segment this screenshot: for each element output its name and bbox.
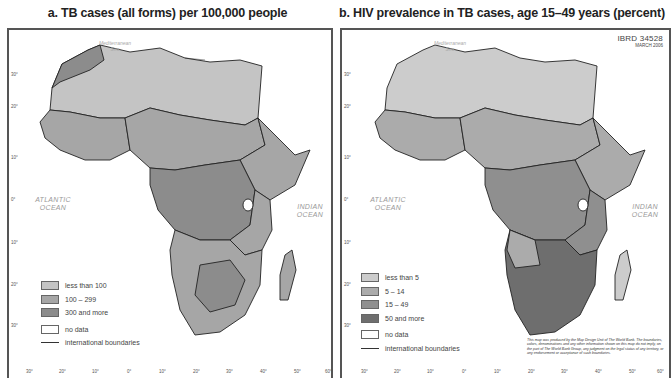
- legend-label: international boundaries: [385, 345, 460, 352]
- legend-item: international boundaries: [41, 336, 140, 350]
- ibrd-id: IBRD 34528: [617, 34, 663, 43]
- legend-label: 15 – 49: [385, 301, 408, 308]
- lon-tick: 30°: [361, 369, 368, 374]
- mediterranean-label: Mediterranean Sea: [85, 40, 145, 52]
- sea-label-line2: Sea: [420, 46, 480, 52]
- legend-swatch: [361, 273, 379, 282]
- lat-tick: 30°: [344, 323, 351, 328]
- legend-swatch: [361, 314, 379, 323]
- ocean-label-line2: OCEAN: [28, 204, 78, 212]
- lon-tick: 40°: [260, 369, 267, 374]
- ocean-label-line1: ATLANTIC: [28, 196, 78, 204]
- lat-tick: 30°: [11, 72, 18, 77]
- map-date: MARCH 2006: [617, 43, 663, 48]
- lat-tick: 20°: [344, 104, 351, 109]
- lon-tick: 0°: [462, 369, 466, 374]
- legend-swatch: [361, 287, 379, 296]
- lat-tick: 10°: [344, 155, 351, 160]
- lon-tick: 0°: [127, 369, 131, 374]
- legend-swatch: [361, 300, 379, 309]
- legend-label: less than 5: [385, 274, 419, 281]
- lon-tick: 50°: [629, 369, 636, 374]
- lon-tick: 60°: [325, 369, 332, 374]
- legend-item: less than 5: [361, 271, 460, 285]
- legend-swatch: [41, 325, 59, 334]
- lon-tick: 30°: [226, 369, 233, 374]
- legend-item: 50 and more: [361, 312, 460, 326]
- lon-tick: 30°: [26, 369, 33, 374]
- lat-tick: 10°: [11, 240, 18, 245]
- map-disclaimer: This map was produced by the Map Design …: [527, 338, 665, 356]
- legend-label: 50 and more: [385, 315, 424, 322]
- lon-tick: 10°: [159, 369, 166, 374]
- legend-item: 100 – 299: [41, 293, 140, 307]
- lon-tick: 20°: [528, 369, 535, 374]
- legend-swatch: [41, 281, 59, 290]
- lon-tick: 30°: [561, 369, 568, 374]
- atlantic-ocean-label: ATLANTIC OCEAN: [363, 196, 413, 212]
- legend-item: no data: [41, 323, 140, 337]
- ocean-label-line1: INDIAN: [625, 203, 665, 211]
- lon-tick: 20°: [394, 369, 401, 374]
- lat-tick: 20°: [344, 282, 351, 287]
- legend-swatch: [41, 295, 59, 304]
- lat-tick: 30°: [344, 72, 351, 77]
- lon-tick: 50°: [294, 369, 301, 374]
- lon-tick: 40°: [595, 369, 602, 374]
- legend-label: 100 – 299: [65, 296, 96, 303]
- legend-label: no data: [385, 331, 408, 338]
- legend-item: no data: [361, 328, 460, 342]
- legend-label: 5 – 14: [385, 288, 404, 295]
- lon-tick: 10°: [92, 369, 99, 374]
- lat-tick: 0°: [344, 197, 348, 202]
- legend-swatch: [41, 308, 59, 317]
- lon-tick: 10°: [494, 369, 501, 374]
- legend-label: international boundaries: [65, 339, 140, 346]
- legend-item: 15 – 49: [361, 298, 460, 312]
- map-legend: less than 5 5 – 14 15 – 49 50 and more n…: [361, 271, 460, 355]
- legend-item: 5 – 14: [361, 285, 460, 299]
- ocean-label-line2: OCEAN: [363, 204, 413, 212]
- lon-tick: 20°: [193, 369, 200, 374]
- lon-tick: 10°: [427, 369, 434, 374]
- ocean-label-line1: ATLANTIC: [363, 196, 413, 204]
- legend-label: less than 100: [65, 282, 107, 289]
- legend-item: 300 and more: [41, 306, 140, 320]
- legend-item: less than 100: [41, 279, 140, 293]
- lat-tick: 30°: [11, 323, 18, 328]
- lat-tick: 10°: [11, 155, 18, 160]
- mediterranean-label: Mediterranean Sea: [420, 40, 480, 52]
- atlantic-ocean-label: ATLANTIC OCEAN: [28, 196, 78, 212]
- legend-label: no data: [65, 326, 88, 333]
- ocean-label-line2: OCEAN: [625, 211, 665, 219]
- lat-tick: 20°: [11, 104, 18, 109]
- boundary-line-icon: [361, 348, 379, 349]
- lat-tick: 0°: [11, 197, 15, 202]
- lon-tick: 60°: [657, 369, 664, 374]
- sea-label-line2: Sea: [85, 46, 145, 52]
- ocean-label-line1: INDIAN: [290, 203, 330, 211]
- map-panel-tb-cases: a. TB cases (all forms) per 100,000 peop…: [0, 0, 335, 376]
- legend-label: 300 and more: [65, 309, 108, 316]
- boundary-line-icon: [41, 342, 59, 343]
- map-legend: less than 100 100 – 299 300 and more no …: [41, 279, 140, 350]
- ibrd-stamp: IBRD 34528 MARCH 2006: [617, 34, 663, 48]
- legend-item: international boundaries: [361, 342, 460, 356]
- lat-tick: 20°: [11, 282, 18, 287]
- map-panel-hiv-prevalence: b. HIV prevalence in TB cases, age 15–49…: [335, 0, 669, 376]
- ocean-label-line2: OCEAN: [290, 211, 330, 219]
- lat-tick: 10°: [344, 240, 351, 245]
- lon-tick: 20°: [59, 369, 66, 374]
- indian-ocean-label: INDIAN OCEAN: [625, 203, 665, 219]
- legend-swatch: [361, 330, 379, 339]
- indian-ocean-label: INDIAN OCEAN: [290, 203, 330, 219]
